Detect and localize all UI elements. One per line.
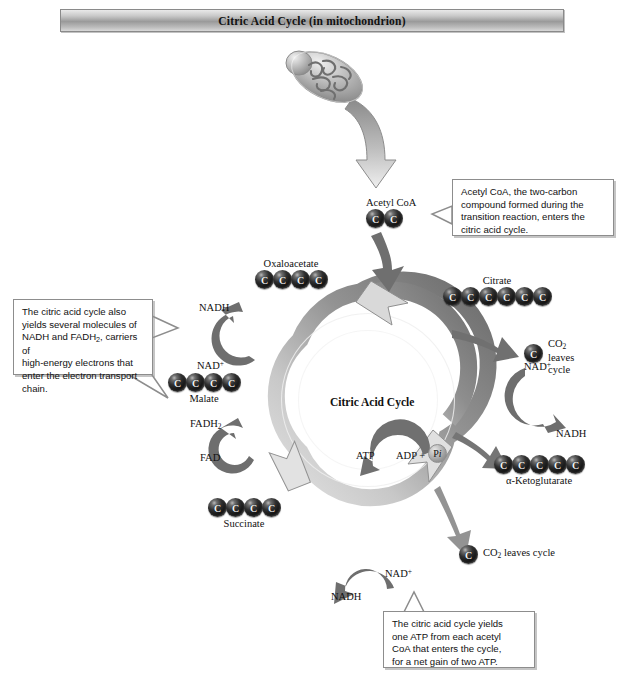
callout-atp-line-2: one ATP from each acetyl bbox=[392, 631, 527, 644]
callout-carriers-line-4: high-energy electrons that bbox=[22, 357, 145, 370]
callout-carriers-line-3a: NADH and FADH bbox=[22, 331, 96, 342]
callout-atp-line-4: for a net gain of two ATP. bbox=[392, 656, 527, 669]
callout-acetyl-coa: Acetyl CoA, the two-carbon compound form… bbox=[452, 179, 614, 236]
callout-atp-line-1: The citric acid cycle yields bbox=[392, 618, 527, 631]
callout-acetyl-line-4: citric acid cycle. bbox=[461, 224, 606, 237]
callout-carriers-line-1: The citric acid cycle also bbox=[22, 306, 145, 319]
callout-carriers-line-2: yields several molecules of bbox=[22, 319, 145, 332]
callout-atp-yield: The citric acid cycle yields one ATP fro… bbox=[383, 611, 535, 668]
acetyl-callout-tail bbox=[432, 206, 452, 224]
callout-atp-line-3: CoA that enters the cycle, bbox=[392, 643, 527, 656]
callout-carriers-line-5: enter the electron transport bbox=[22, 370, 145, 383]
callout-acetyl-line-2: compound formed during the bbox=[461, 199, 606, 212]
callout-acetyl-line-1: Acetyl CoA, the two-carbon bbox=[461, 186, 606, 199]
callout-electron-carriers: The citric acid cycle also yields severa… bbox=[13, 299, 153, 375]
callout-acetyl-line-3: transition reaction, enters the bbox=[461, 211, 606, 224]
diagram-canvas: Citric Acid Cycle (in mitochondrion) bbox=[0, 0, 622, 678]
callout-carriers-line-3: NADH and FADH2, carriers of bbox=[22, 331, 145, 357]
atp-callout-tail bbox=[404, 592, 424, 612]
carriers-callout-tail-right bbox=[152, 316, 178, 338]
callout-carriers-line-6: chain. bbox=[22, 383, 145, 396]
